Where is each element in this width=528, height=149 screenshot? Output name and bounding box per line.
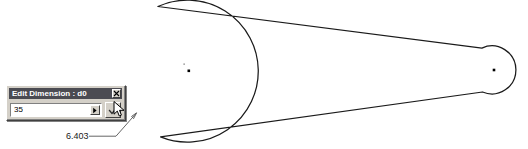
accept-dimension-button[interactable]: [105, 102, 121, 118]
checkmark-icon: [108, 105, 119, 116]
center-point-right-marker: [493, 69, 496, 72]
dialog-inner-frame: Edit Dimension : d0 35: [7, 86, 125, 120]
dimension-dropdown-button[interactable]: [90, 105, 100, 115]
dialog-titlebar[interactable]: Edit Dimension : d0: [9, 88, 122, 99]
center-point-left-marker: [188, 70, 191, 73]
close-button[interactable]: [112, 89, 121, 98]
teardrop-profile: [158, 0, 516, 142]
dimension-value-combobox[interactable]: 35: [10, 103, 102, 117]
edit-dimension-dialog[interactable]: Edit Dimension : d0 35: [6, 85, 126, 121]
dialog-body: 35: [10, 102, 121, 118]
cad-canvas[interactable]: 6.403 Edit Dimension : d0 35: [0, 0, 528, 149]
sketch-geometry: 6.403: [0, 0, 528, 149]
dimension-value-text[interactable]: 35: [11, 104, 23, 116]
close-icon: [113, 90, 120, 97]
construction-point-marker: [183, 63, 185, 65]
radius-dimension-label[interactable]: 6.403: [66, 131, 89, 141]
chevron-right-icon: [92, 107, 98, 114]
dialog-title: Edit Dimension : d0: [9, 88, 87, 99]
